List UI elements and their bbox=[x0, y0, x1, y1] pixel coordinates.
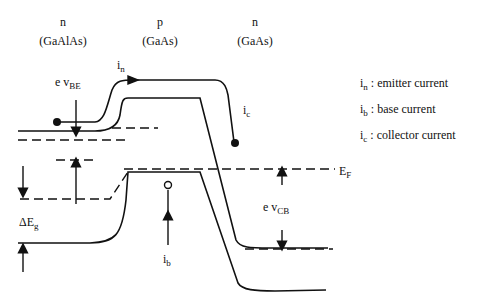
label-delta-eg: ΔEg bbox=[19, 215, 39, 229]
label-ef: EF bbox=[339, 164, 351, 178]
label-ib: ib bbox=[163, 252, 171, 266]
emitter-material: (GaAlAs) bbox=[39, 34, 86, 48]
collector-material: (GaAs) bbox=[237, 34, 272, 48]
legend-item: ic : collector current bbox=[360, 125, 456, 151]
emitter-type: n bbox=[60, 15, 66, 29]
collector-type: n bbox=[252, 15, 258, 29]
label-in: in bbox=[117, 58, 125, 72]
legend-item: ib : base current bbox=[360, 99, 456, 125]
legend: in : emitter current ib : base current i… bbox=[360, 73, 456, 151]
valence-band bbox=[18, 172, 326, 291]
electron-path bbox=[57, 80, 234, 142]
label-evbe: e vBE bbox=[55, 75, 81, 89]
base-material: (GaAs) bbox=[142, 34, 177, 48]
label-ic: ic bbox=[243, 103, 250, 117]
label-evcb: e vCB bbox=[263, 200, 289, 214]
base-type: p bbox=[157, 15, 163, 29]
legend-item: in : emitter current bbox=[360, 73, 456, 99]
